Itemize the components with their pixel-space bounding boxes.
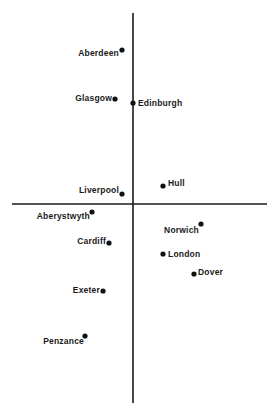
point-label: Hull xyxy=(168,178,185,188)
data-points: AberdeenGlasgowEdinburghHullLiverpoolAbe… xyxy=(37,47,224,346)
point-label: Penzance xyxy=(43,336,84,346)
data-point-hull: Hull xyxy=(160,178,184,189)
point-marker-icon xyxy=(119,191,124,196)
data-point-aberystwyth: Aberystwyth xyxy=(37,209,95,221)
scatter-plot: AberdeenGlasgowEdinburghHullLiverpoolAbe… xyxy=(0,0,275,409)
point-label: Dover xyxy=(198,267,224,277)
point-label: Cardiff xyxy=(77,236,106,246)
data-point-norwich: Norwich xyxy=(164,221,204,235)
point-marker-icon xyxy=(191,271,196,276)
data-point-glasgow: Glasgow xyxy=(75,93,117,103)
point-marker-icon xyxy=(119,47,124,52)
point-marker-icon xyxy=(89,209,94,214)
point-label: Exeter xyxy=(73,285,101,295)
data-point-cardiff: Cardiff xyxy=(77,236,111,246)
data-point-exeter: Exeter xyxy=(73,285,106,295)
point-label: Liverpool xyxy=(79,185,119,195)
point-marker-icon xyxy=(130,100,135,105)
data-point-liverpool: Liverpool xyxy=(79,185,125,197)
data-point-dover: Dover xyxy=(191,267,223,277)
data-point-london: London xyxy=(160,249,200,259)
point-marker-icon xyxy=(198,221,203,226)
point-label: Norwich xyxy=(164,225,199,235)
data-point-edinburgh: Edinburgh xyxy=(130,98,182,108)
point-marker-icon xyxy=(106,240,111,245)
data-point-penzance: Penzance xyxy=(43,333,87,346)
point-marker-icon xyxy=(112,96,117,101)
point-marker-icon xyxy=(160,183,165,188)
point-label: London xyxy=(168,249,200,259)
point-marker-icon xyxy=(100,288,105,293)
point-label: Aberystwyth xyxy=(37,211,90,221)
point-label: Glasgow xyxy=(75,93,112,103)
point-label: Edinburgh xyxy=(138,98,182,108)
point-marker-icon xyxy=(160,251,165,256)
data-point-aberdeen: Aberdeen xyxy=(78,47,124,58)
point-label: Aberdeen xyxy=(78,48,119,58)
